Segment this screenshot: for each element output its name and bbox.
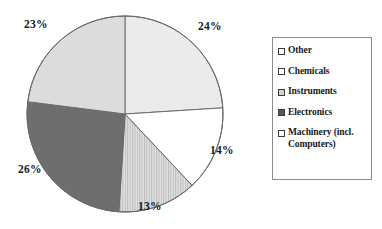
legend: Other Chemicals Instruments Electronics …: [272, 37, 372, 180]
legend-label-instruments: Instruments: [288, 86, 337, 98]
legend-item-instruments: Instruments: [278, 86, 371, 98]
pie-chart-svg: [0, 0, 262, 229]
pie-chart-screenshot: 24% 14% 13% 26% 23% Other Chemicals Inst…: [0, 0, 382, 229]
legend-swatch-machinery-icon: [278, 130, 285, 137]
legend-item-machinery: Machinery (incl. Computers): [278, 127, 371, 150]
slice-label-other: 24%: [198, 20, 222, 32]
slice-label-chemicals: 14%: [210, 144, 234, 156]
legend-label-electronics: Electronics: [288, 107, 332, 119]
legend-label-chemicals: Chemicals: [288, 66, 329, 78]
legend-swatch-chemicals-icon: [278, 68, 285, 75]
legend-label-other: Other: [288, 45, 312, 57]
legend-swatch-instruments-icon: [278, 89, 285, 96]
pie-slice-electronics: [27, 102, 125, 212]
slice-label-machinery: 23%: [24, 18, 48, 30]
pie-slice-group: [27, 16, 223, 212]
legend-label-machinery: Machinery (incl. Computers): [288, 127, 371, 150]
legend-item-other: Other: [278, 45, 371, 57]
legend-swatch-electronics-icon: [278, 109, 285, 116]
legend-item-chemicals: Chemicals: [278, 66, 371, 78]
pie-chart-plot-area: 24% 14% 13% 26% 23%: [0, 0, 262, 229]
slice-label-instruments: 13%: [138, 200, 162, 212]
slice-label-electronics: 26%: [18, 163, 42, 175]
legend-item-electronics: Electronics: [278, 107, 371, 119]
legend-swatch-other-icon: [278, 48, 285, 55]
pie-slice-machinery-incl-computers: [28, 16, 125, 114]
